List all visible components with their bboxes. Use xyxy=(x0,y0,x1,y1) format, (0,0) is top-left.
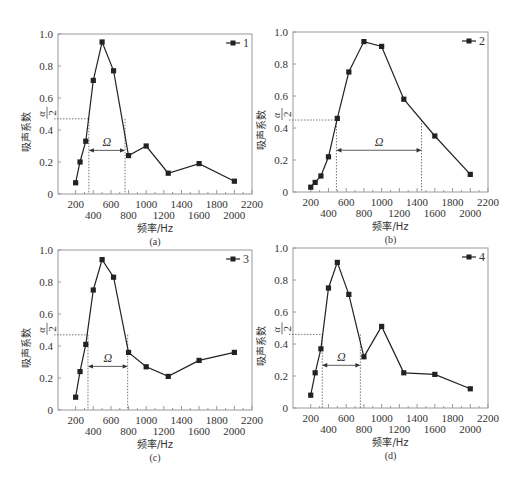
x-tick-label: 200 xyxy=(302,412,319,424)
x-tick-label: 200 xyxy=(67,414,84,426)
x-tick-label: 800 xyxy=(120,425,137,437)
bandwidth-label: Ω xyxy=(103,135,112,149)
data-point-marker xyxy=(83,139,88,144)
x-tick-label: 800 xyxy=(356,207,373,219)
y-tick-label: 1.0 xyxy=(274,242,288,254)
bandwidth-label: Ω xyxy=(337,350,346,364)
data-point-marker xyxy=(401,370,406,375)
half-alpha-label: α2 xyxy=(36,107,58,119)
chart-panel-3: 00.20.40.60.81.0200600100014001800220040… xyxy=(20,244,264,464)
panel-label: (b) xyxy=(385,234,397,246)
y-tick-label: 0 xyxy=(48,188,54,200)
data-point-marker xyxy=(308,393,313,398)
panel-label: (d) xyxy=(385,450,397,462)
legend-label: 3 xyxy=(243,252,249,266)
plot-frame xyxy=(293,32,488,192)
data-point-marker xyxy=(326,154,331,159)
y-tick-label: 0.6 xyxy=(274,90,288,102)
x-tick-label: 1600 xyxy=(424,423,447,435)
data-point-marker xyxy=(91,287,96,292)
data-point-marker xyxy=(468,386,473,391)
data-point-marker xyxy=(144,143,149,148)
bandwidth-label: Ω xyxy=(103,351,112,365)
data-point-marker xyxy=(326,285,331,290)
x-tick-label: 400 xyxy=(320,423,337,435)
x-tick-label: 800 xyxy=(356,423,373,435)
x-tick-label: 1600 xyxy=(188,425,211,437)
data-point-marker xyxy=(196,358,201,363)
svg-text:2: 2 xyxy=(46,110,58,116)
figure-canvas: 00.20.40.60.81.0200600100014001800220040… xyxy=(0,0,523,486)
data-point-marker xyxy=(401,97,406,102)
svg-text:2: 2 xyxy=(281,326,293,332)
data-point-marker xyxy=(432,372,437,377)
x-tick-label: 800 xyxy=(120,209,137,221)
data-point-marker xyxy=(196,161,201,166)
data-point-marker xyxy=(313,370,318,375)
data-point-marker xyxy=(73,395,78,400)
x-tick-label: 400 xyxy=(85,425,102,437)
y-tick-label: 0.6 xyxy=(39,308,53,320)
chart-panel-2: 00.20.40.60.81.0200600100014001800220040… xyxy=(255,26,500,246)
chart-panel-4: 00.20.40.60.81.0200600100014001800220040… xyxy=(255,242,500,462)
svg-text:2: 2 xyxy=(46,326,58,332)
legend-marker-icon xyxy=(231,257,236,262)
y-tick-label: 0.2 xyxy=(274,370,288,382)
y-tick-label: 0.8 xyxy=(39,276,53,288)
data-point-marker xyxy=(111,68,116,73)
series-line xyxy=(76,42,235,183)
data-point-marker xyxy=(468,172,473,177)
series-line xyxy=(76,260,235,398)
y-tick-label: 0 xyxy=(48,404,54,416)
x-axis-title: 频率/Hz xyxy=(137,438,173,450)
half-alpha-label: α2 xyxy=(36,323,58,335)
x-tick-label: 400 xyxy=(85,209,102,221)
data-point-marker xyxy=(318,173,323,178)
bandwidth-label: Ω xyxy=(375,135,384,149)
y-tick-label: 0.2 xyxy=(39,156,53,168)
series-line xyxy=(311,262,471,395)
arrowhead-left-icon xyxy=(88,364,93,368)
data-point-marker xyxy=(144,364,149,369)
data-point-marker xyxy=(232,179,237,184)
plot-frame xyxy=(58,250,252,410)
data-point-marker xyxy=(379,44,384,49)
plot-frame xyxy=(58,34,252,194)
y-axis-title: 吸声系数 xyxy=(20,112,32,152)
legend-marker-icon xyxy=(467,255,472,260)
y-tick-label: 0.4 xyxy=(39,340,53,352)
arrowhead-left-icon xyxy=(336,148,341,152)
data-point-marker xyxy=(379,324,384,329)
x-tick-label: 1200 xyxy=(388,423,411,435)
x-tick-label: 600 xyxy=(338,196,355,208)
half-alpha-label: α2 xyxy=(271,322,293,334)
y-tick-label: 0.8 xyxy=(39,60,53,72)
x-tick-label: 1600 xyxy=(424,207,447,219)
data-point-marker xyxy=(111,275,116,280)
data-point-marker xyxy=(77,159,82,164)
data-point-marker xyxy=(83,342,88,347)
data-point-marker xyxy=(126,153,131,158)
y-tick-label: 0 xyxy=(283,402,289,414)
y-tick-label: 0.6 xyxy=(39,92,53,104)
y-tick-label: 0.2 xyxy=(39,372,53,384)
y-tick-label: 0.4 xyxy=(39,124,53,136)
data-point-marker xyxy=(77,369,82,374)
data-point-marker xyxy=(232,350,237,355)
data-point-marker xyxy=(346,69,351,74)
x-axis-title: 频率/Hz xyxy=(372,220,408,232)
x-tick-label: 2000 xyxy=(223,425,246,437)
y-tick-label: 1.0 xyxy=(39,244,53,256)
x-tick-label: 200 xyxy=(67,198,84,210)
y-tick-label: 0.2 xyxy=(274,154,288,166)
x-tick-label: 1600 xyxy=(188,209,211,221)
data-point-marker xyxy=(99,257,104,262)
x-tick-label: 600 xyxy=(338,412,355,424)
series-line xyxy=(311,42,471,188)
data-point-marker xyxy=(73,180,78,185)
data-point-marker xyxy=(335,116,340,121)
data-point-marker xyxy=(308,185,313,190)
x-tick-label: 2000 xyxy=(459,207,482,219)
x-tick-label: 1200 xyxy=(153,209,176,221)
data-point-marker xyxy=(318,346,323,351)
